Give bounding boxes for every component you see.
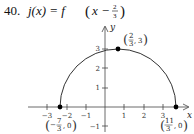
svg-text:3: 3: [166, 125, 170, 133]
svg-text:,: ,: [63, 122, 65, 130]
semicircle-curve: [60, 49, 176, 107]
svg-text:0: 0: [178, 122, 182, 130]
label-right-endpoint: ( 11 3 , 0 ): [160, 117, 188, 133]
svg-text:3: 3: [129, 40, 133, 48]
label-vertex: ( 2 3 , 3 ): [123, 32, 148, 48]
point-right-endpoint: [174, 105, 179, 110]
svg-text:3: 3: [57, 125, 61, 133]
label-left-endpoint: ( − 7 3 , 0 ): [45, 117, 77, 133]
x-tick-label: −1: [81, 112, 91, 120]
y-axis-label: y: [109, 22, 116, 32]
frac-denominator: 3: [113, 12, 117, 20]
svg-text:2: 2: [129, 32, 133, 40]
svg-text:0: 0: [67, 122, 71, 130]
svg-text:): ): [72, 118, 77, 133]
svg-text:−: −: [50, 121, 56, 129]
svg-text:7: 7: [57, 117, 61, 125]
frac-numerator: 2: [113, 3, 117, 11]
paren-close: ): [120, 3, 125, 20]
x-tick-label: 2: [142, 112, 146, 120]
svg-text:(: (: [123, 32, 128, 47]
point-vertex: [116, 47, 121, 52]
point-left-endpoint: [58, 105, 63, 110]
problem-number: 40.: [4, 3, 20, 18]
problem-title: 40. j(x) = f ( x − 2 3 ): [4, 3, 125, 20]
y-tick-label: 2: [96, 65, 100, 73]
svg-text:,: ,: [174, 122, 176, 130]
y-tick-label: −1: [90, 123, 100, 131]
paren-open: (: [85, 3, 90, 20]
x-tick-label: 1: [122, 112, 126, 120]
x-tick-label: −2: [62, 112, 72, 120]
y-tick-label: 1: [96, 84, 100, 92]
svg-text:11: 11: [165, 117, 174, 125]
svg-text:,: ,: [134, 37, 136, 45]
function-lhs: j(x) = f: [26, 3, 67, 18]
svg-text:): ): [183, 118, 188, 133]
graph-figure: 40. j(x) = f ( x − 2 3 ) y x −3 −2 −1: [0, 0, 194, 134]
svg-text:3: 3: [138, 37, 142, 45]
svg-text:): ): [143, 32, 148, 47]
arg-variable: x −: [91, 3, 110, 18]
